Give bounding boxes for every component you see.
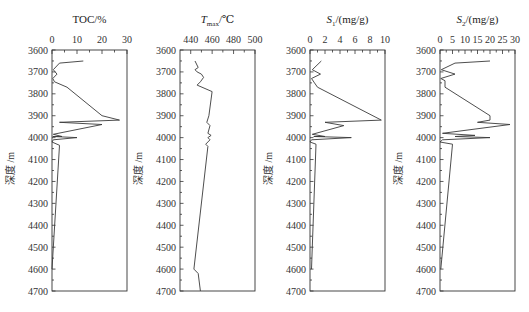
x-tick-label: 20: [485, 34, 495, 45]
panel-title: Tmax/℃: [201, 13, 235, 28]
y-tick-label: 3700: [28, 66, 48, 77]
panel-title: S1/(mg/g): [327, 13, 369, 28]
y-tick-label: 4600: [416, 264, 436, 275]
data-curve: [310, 61, 381, 269]
y-tick-label: 4400: [286, 220, 306, 231]
x-tick-label: 460: [205, 34, 220, 45]
y-tick-label: 4700: [28, 286, 48, 297]
y-tick-label: 4500: [28, 242, 48, 253]
x-tick-label: 500: [248, 34, 263, 45]
y-tick-label: 3900: [28, 110, 48, 121]
data-curve: [194, 61, 212, 291]
x-tick-label: 4: [338, 34, 343, 45]
y-tick-label: 3600: [28, 45, 48, 56]
y-tick-label: 4200: [156, 176, 176, 187]
y-tick-label: 4300: [28, 198, 48, 209]
y-tick-label: 4100: [286, 154, 306, 165]
depth-profile-figure: TOC/%01020303600370038003900400041004200…: [0, 0, 529, 312]
y-tick-label: 4300: [156, 198, 176, 209]
x-tick-label: 10: [380, 34, 390, 45]
x-tick-label: 10: [72, 34, 82, 45]
x-tick-label: 25: [498, 34, 508, 45]
x-tick-label: 0: [438, 34, 443, 45]
y-axis-label: 深度 /m: [392, 152, 404, 185]
y-tick-label: 4500: [286, 242, 306, 253]
y-tick-label: 4500: [156, 242, 176, 253]
y-tick-label: 4100: [416, 154, 436, 165]
y-tick-label: 4100: [156, 154, 176, 165]
x-tick-label: 0: [308, 34, 313, 45]
plot-frame: [310, 50, 385, 291]
x-tick-label: 20: [97, 34, 107, 45]
data-curve: [52, 61, 120, 269]
y-tick-label: 3800: [156, 88, 176, 99]
y-tick-label: 3600: [416, 45, 436, 56]
y-tick-label: 3600: [156, 45, 176, 56]
y-tick-label: 3900: [416, 110, 436, 121]
y-tick-label: 4200: [286, 176, 306, 187]
x-tick-label: 6: [353, 34, 358, 45]
x-tick-label: 480: [226, 34, 241, 45]
data-curve: [440, 61, 510, 269]
panel-4: S2/(mg/g)0510152025303600370038003900400…: [392, 13, 520, 297]
panel-1: TOC/%01020303600370038003900400041004200…: [4, 13, 132, 297]
x-tick-label: 8: [368, 34, 373, 45]
y-tick-label: 4200: [28, 176, 48, 187]
y-tick-label: 3800: [28, 88, 48, 99]
y-tick-label: 4600: [28, 264, 48, 275]
panel-title: TOC/%: [72, 13, 106, 25]
x-tick-label: 30: [122, 34, 132, 45]
x-tick-label: 0: [50, 34, 55, 45]
y-tick-label: 3600: [286, 45, 306, 56]
y-tick-label: 4700: [156, 286, 176, 297]
x-tick-label: 2: [323, 34, 328, 45]
y-tick-label: 4700: [416, 286, 436, 297]
y-tick-label: 3700: [286, 66, 306, 77]
y-tick-label: 3700: [156, 66, 176, 77]
y-tick-label: 4600: [156, 264, 176, 275]
plot-frame: [52, 50, 127, 291]
y-axis-label: 深度 /m: [262, 152, 274, 185]
panel-title: S2/(mg/g): [457, 13, 499, 28]
x-tick-label: 440: [183, 34, 198, 45]
y-tick-label: 4000: [156, 132, 176, 143]
y-tick-label: 4300: [286, 198, 306, 209]
y-tick-label: 4400: [156, 220, 176, 231]
y-tick-label: 3800: [286, 88, 306, 99]
y-tick-label: 4200: [416, 176, 436, 187]
y-tick-label: 4600: [286, 264, 306, 275]
plot-frame: [180, 50, 255, 291]
panel-3: S1/(mg/g)0246810360037003800390040004100…: [262, 13, 390, 297]
y-tick-label: 4700: [286, 286, 306, 297]
x-tick-label: 5: [450, 34, 455, 45]
y-tick-label: 4400: [28, 220, 48, 231]
y-tick-label: 4000: [416, 132, 436, 143]
y-axis-label: 深度 /m: [4, 152, 16, 185]
y-tick-label: 4500: [416, 242, 436, 253]
y-tick-label: 4300: [416, 198, 436, 209]
y-tick-label: 3900: [156, 110, 176, 121]
y-tick-label: 4100: [28, 154, 48, 165]
y-tick-label: 3800: [416, 88, 436, 99]
y-tick-label: 3700: [416, 66, 436, 77]
y-tick-label: 4000: [28, 132, 48, 143]
x-tick-label: 15: [473, 34, 483, 45]
y-tick-label: 3900: [286, 110, 306, 121]
y-axis-label: 深度 /m: [132, 152, 144, 185]
y-tick-label: 4000: [286, 132, 306, 143]
plot-frame: [440, 50, 515, 291]
x-tick-label: 30: [510, 34, 520, 45]
panel-2: Tmax/℃4404604805003600370038003900400041…: [132, 13, 263, 297]
y-tick-label: 4400: [416, 220, 436, 231]
x-tick-label: 10: [460, 34, 470, 45]
